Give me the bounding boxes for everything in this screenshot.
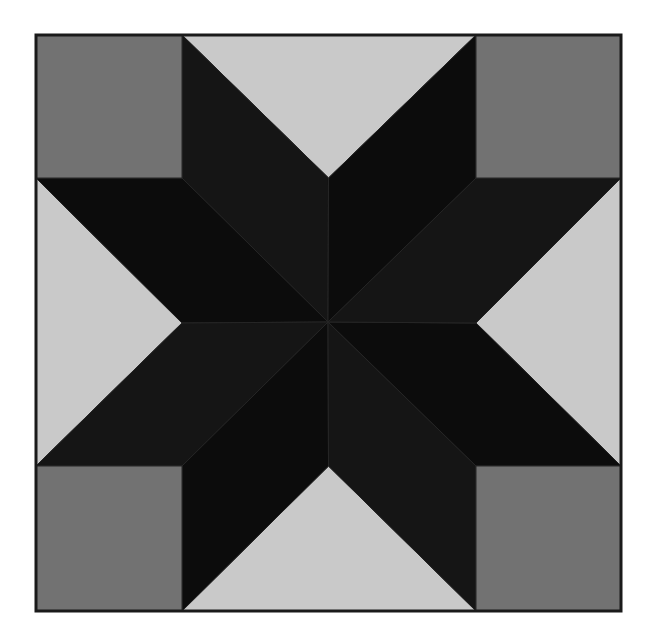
corner-square-top-right [476,35,621,178]
corner-square-top-left [36,35,182,178]
corner-square-bottom-right [476,466,621,611]
quilt-block [0,0,654,640]
corner-square-bottom-left [36,466,182,611]
